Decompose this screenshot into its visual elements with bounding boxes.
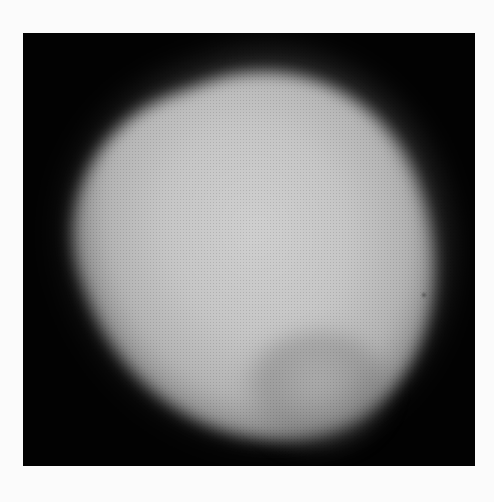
dark-speck <box>422 293 426 297</box>
photo-panel <box>23 33 475 466</box>
blob-lower-tip <box>243 333 393 453</box>
